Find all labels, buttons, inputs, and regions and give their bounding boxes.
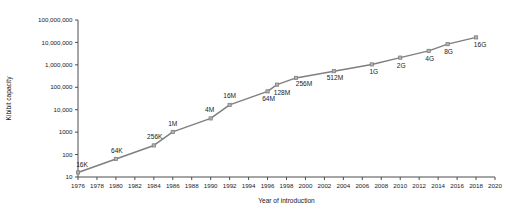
data-point-label: 512M — [327, 74, 344, 81]
x-tick-label: 2020 — [488, 182, 502, 189]
data-point-label: 64M — [262, 95, 275, 102]
x-tick-label: 1978 — [90, 182, 104, 189]
data-point-labels: 16K64K256K1M4M16M64M128M256M512M1G2G4G8G… — [76, 41, 486, 168]
data-series — [76, 36, 477, 174]
data-point-label: 4M — [205, 106, 214, 113]
data-point-label: 1G — [369, 68, 378, 75]
data-point-label: 2G — [397, 62, 406, 69]
data-point-marker — [332, 70, 335, 73]
data-point-marker — [266, 90, 269, 93]
x-tick-label: 1996 — [261, 182, 275, 189]
x-tick-label: 2010 — [393, 182, 407, 189]
data-point-marker — [370, 63, 373, 66]
data-point-label: 16G — [474, 41, 486, 48]
x-tick-label: 1998 — [280, 182, 294, 189]
data-point-label: 256K — [147, 133, 163, 140]
data-point-marker — [114, 157, 117, 160]
chart-container: 10100100010,000100,0001,000,00010,000,00… — [0, 0, 514, 216]
x-tick-label: 1976 — [71, 182, 85, 189]
y-tick-label: 10,000 — [54, 106, 73, 113]
data-point-label: 16M — [223, 92, 236, 99]
x-tick-label: 2008 — [374, 182, 388, 189]
y-axis-title: Kibibit capacity — [5, 76, 13, 121]
y-tick-label: 1,000,000 — [45, 61, 73, 68]
y-tick-label: 100,000 — [50, 83, 73, 90]
x-axis: 1976197819801982198419861988199019921994… — [71, 177, 502, 189]
y-tick-label: 1000 — [59, 128, 73, 135]
y-tick-label: 100,000,000 — [38, 16, 73, 23]
y-tick-label: 10,000,000 — [42, 39, 74, 46]
x-tick-label: 2002 — [318, 182, 332, 189]
data-point-marker — [209, 117, 212, 120]
data-point-marker — [427, 49, 430, 52]
x-tick-label: 2000 — [299, 182, 313, 189]
data-point-label: 8G — [444, 48, 453, 55]
x-tick-label: 2004 — [336, 182, 350, 189]
y-tick-label: 10 — [66, 173, 73, 180]
x-tick-label: 1982 — [128, 182, 142, 189]
x-axis-title: Year of introduction — [258, 197, 315, 204]
x-tick-label: 1992 — [223, 182, 237, 189]
x-tick-label: 1980 — [109, 182, 123, 189]
data-point-marker — [275, 83, 278, 86]
data-point-label: 1M — [168, 120, 177, 127]
x-tick-label: 1986 — [166, 182, 180, 189]
x-tick-label: 2012 — [412, 182, 426, 189]
data-point-marker — [171, 130, 174, 133]
x-tick-label: 2014 — [431, 182, 445, 189]
data-point-label: 64K — [111, 147, 123, 154]
x-tick-label: 1984 — [147, 182, 161, 189]
data-point-label: 256M — [296, 80, 313, 87]
series-line-path — [78, 37, 476, 172]
data-point-marker — [76, 171, 79, 174]
data-point-marker — [474, 36, 477, 39]
data-point-marker — [152, 144, 155, 147]
data-point-marker — [446, 43, 449, 46]
capacity-vs-year-line-chart: 10100100010,000100,0001,000,00010,000,00… — [0, 0, 514, 216]
x-tick-label: 1994 — [242, 182, 256, 189]
data-point-marker — [399, 56, 402, 59]
y-axis: 10100100010,000100,0001,000,00010,000,00… — [38, 16, 78, 180]
data-point-marker — [228, 103, 231, 106]
data-point-label: 128M — [274, 89, 291, 96]
x-tick-label: 1988 — [185, 182, 199, 189]
x-tick-label: 2006 — [355, 182, 369, 189]
x-tick-label: 1990 — [204, 182, 218, 189]
data-point-label: 16K — [76, 161, 88, 168]
data-point-label: 4G — [425, 55, 434, 62]
x-tick-label: 2018 — [469, 182, 483, 189]
x-tick-label: 2016 — [450, 182, 464, 189]
y-tick-label: 100 — [62, 151, 73, 158]
